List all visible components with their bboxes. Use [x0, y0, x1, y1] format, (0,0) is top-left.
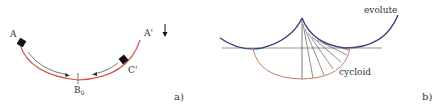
label-evolute: evolute — [364, 5, 397, 15]
block-a — [17, 38, 27, 48]
caption-b: b) — [422, 91, 432, 102]
evolute-left-arc — [220, 18, 302, 49]
motion-arrow-left — [28, 52, 68, 75]
motion-arrow-right — [94, 63, 118, 74]
cycloid-curve — [253, 48, 350, 79]
arrowhead-left-icon — [65, 73, 70, 77]
panel-a: A A' C' B0 a) — [9, 24, 184, 102]
label-c-prime: C' — [128, 65, 137, 75]
label-a-prime: A' — [143, 28, 153, 38]
label-a: A — [9, 29, 17, 39]
label-cycloid: cycloid — [339, 67, 371, 77]
arrowhead-right-icon — [92, 72, 97, 76]
panel-b: evolute cycloid b) — [220, 5, 432, 102]
figure: A A' C' B0 a) evolute cycloid b) — [0, 0, 441, 110]
caption-a: a) — [174, 91, 184, 102]
label-b0-sub: 0 — [81, 89, 85, 96]
label-b0: B0 — [74, 85, 85, 96]
gravity-arrowhead-icon — [163, 32, 168, 37]
evolute-right-arc — [302, 15, 398, 48]
